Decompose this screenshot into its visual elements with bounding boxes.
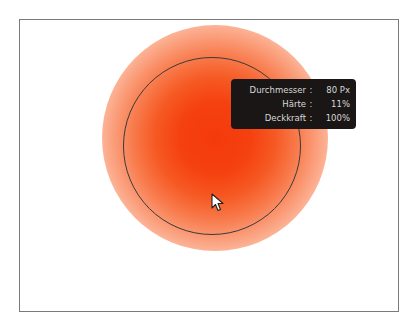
separator: : xyxy=(306,111,316,125)
tooltip-row-hardness: Härte : 11% xyxy=(237,97,350,111)
diameter-value: 80 Px xyxy=(316,83,350,97)
hardness-label: Härte xyxy=(282,97,306,111)
arrow-pointer-icon xyxy=(211,193,225,213)
canvas-frame[interactable]: Durchmesser : 80 Px Härte : 11% Deckkraf… xyxy=(19,19,399,312)
hardness-value: 11% xyxy=(316,97,350,111)
tooltip-row-opacity: Deckkraft : 100% xyxy=(237,111,350,125)
separator: : xyxy=(306,97,316,111)
brush-settings-tooltip: Durchmesser : 80 Px Härte : 11% Deckkraf… xyxy=(231,79,356,129)
diameter-label: Durchmesser xyxy=(250,83,306,97)
opacity-label: Deckkraft xyxy=(265,111,306,125)
separator: : xyxy=(306,83,316,97)
tooltip-row-diameter: Durchmesser : 80 Px xyxy=(237,83,350,97)
opacity-value: 100% xyxy=(316,111,350,125)
